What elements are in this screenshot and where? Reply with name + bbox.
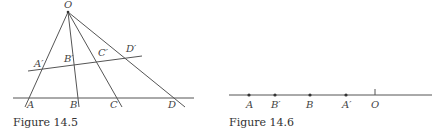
label-C-prime: C′ <box>98 47 109 58</box>
caption-figure-14-6: Figure 14.6 <box>229 116 294 129</box>
label-B-prime: B′ <box>270 99 281 110</box>
label-O: O <box>64 0 72 10</box>
figure-14-5: O A B C D A′ B′ C′ D′ Figure 14.5 <box>13 0 194 129</box>
point-B <box>308 93 311 96</box>
label-A: A <box>245 99 253 110</box>
figure-14-6: A B′ B A′ O Figure 14.6 <box>229 89 432 129</box>
label-O: O <box>371 99 379 110</box>
point-A-prime <box>344 93 347 96</box>
point-B-prime <box>273 93 276 96</box>
point-A <box>247 93 250 96</box>
label-A-prime: A′ <box>33 58 44 69</box>
ray-OA <box>25 12 68 107</box>
figures-canvas: O A B C D A′ B′ C′ D′ Figure 14.5 A B′ B… <box>0 0 444 132</box>
label-B: B <box>305 99 313 110</box>
label-C: C <box>110 99 118 110</box>
label-D: D <box>167 99 176 110</box>
label-D-prime: D′ <box>125 43 137 54</box>
ray-OD <box>68 12 185 107</box>
label-B: B <box>69 99 77 110</box>
point-O <box>67 11 70 14</box>
caption-figure-14-5: Figure 14.5 <box>13 116 78 129</box>
label-A-prime: A′ <box>341 99 352 110</box>
label-A: A <box>26 99 34 110</box>
label-B-prime: B′ <box>63 53 74 64</box>
